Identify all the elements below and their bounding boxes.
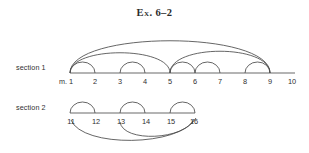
measure-number: 4 <box>143 77 147 86</box>
measure-number: 14 <box>142 117 150 126</box>
measure-number: 13 <box>117 117 125 126</box>
figure-title: Ex. 6–2 <box>0 7 309 18</box>
measure-number: 12 <box>92 117 100 126</box>
section-2-arcs-below <box>71 118 196 140</box>
section-1-arcs-level-2 <box>70 51 270 73</box>
measure-number: 15 <box>167 117 175 126</box>
measure-number: 9 <box>268 77 272 86</box>
measure-number: 2 <box>93 77 97 86</box>
section-2-label: section 2 <box>16 103 46 112</box>
section-1-arcs-level-3 <box>70 41 270 73</box>
section-1-label: section 1 <box>16 63 46 72</box>
arc-diagram-canvas <box>0 0 309 153</box>
measure-number: 1 <box>69 77 73 86</box>
measure-number: 7 <box>218 77 222 86</box>
section-2-arcs-above <box>70 102 195 113</box>
measure-number: 16 <box>190 117 198 126</box>
measure-prefix-label: m. <box>59 77 67 86</box>
measure-number: 3 <box>118 77 122 86</box>
measure-number: 5 <box>168 77 172 86</box>
measure-number: 11 <box>67 117 75 126</box>
example-figure: Ex. 6–2 section 1 section 2 m. <box>0 0 309 153</box>
measure-number: 10 <box>288 77 296 86</box>
measure-number: 8 <box>243 77 247 86</box>
measure-number: 6 <box>193 77 197 86</box>
